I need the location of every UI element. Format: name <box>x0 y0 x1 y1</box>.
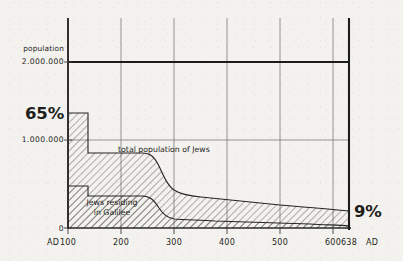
annotation-galilee-line1: Jews residing <box>85 198 137 207</box>
annotation-galilee-line2: in Galilee <box>94 208 131 217</box>
x-label-ad-left: AD <box>47 238 59 247</box>
x-label-400: 400 <box>219 238 235 247</box>
callout-65-percent: 65% <box>25 104 65 123</box>
x-label-500: 500 <box>272 238 288 247</box>
x-label-638: 638 <box>341 238 357 247</box>
y-label-0: 0 <box>59 224 64 233</box>
y-axis-title: population <box>23 44 64 53</box>
x-label-100: 100 <box>60 238 76 247</box>
y-label-1000000: 1.000.000 <box>22 135 64 144</box>
x-label-200: 200 <box>113 238 129 247</box>
callout-9-percent: 9% <box>354 202 382 221</box>
chart-canvas: population 2.000.000 1.000.000 0 65% 9% … <box>0 0 403 261</box>
x-label-300: 300 <box>166 238 182 247</box>
annotation-total-population: total population of Jews <box>118 145 210 154</box>
y-label-2000000: 2.000.000 <box>22 57 64 66</box>
population-chart: population 2.000.000 1.000.000 0 65% 9% … <box>0 0 403 261</box>
x-label-600: 600 <box>325 238 341 247</box>
x-label-ad-right: AD <box>366 238 378 247</box>
